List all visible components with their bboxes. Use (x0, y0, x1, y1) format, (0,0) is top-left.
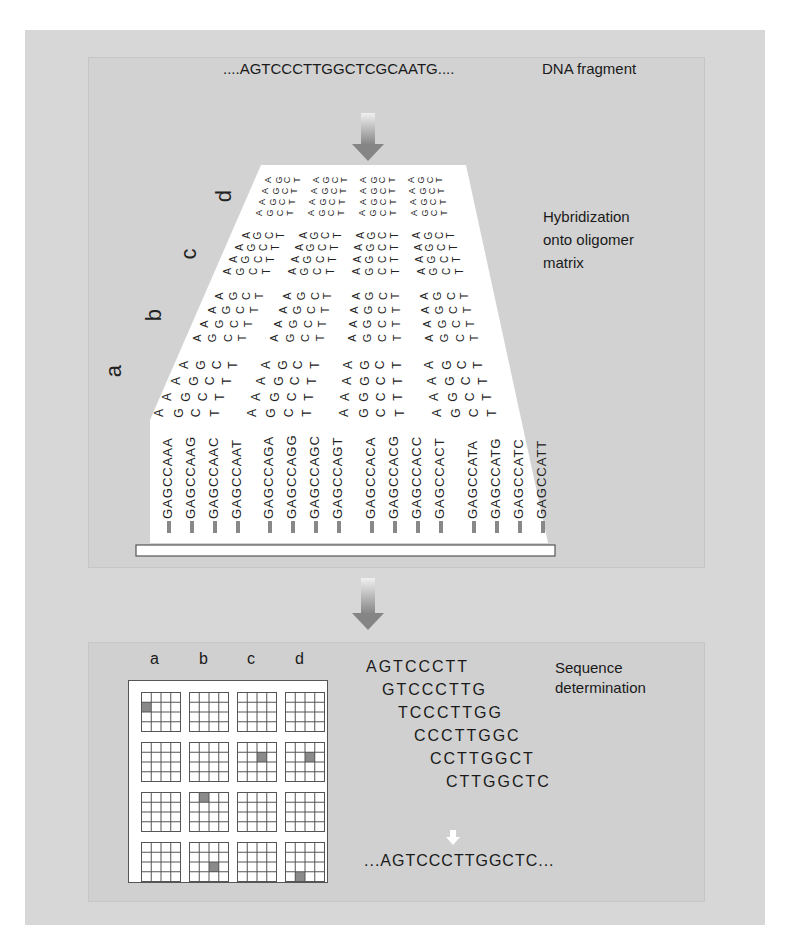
matrix-base: T (265, 256, 276, 262)
oligomer-sequence: GAGCCACT (432, 437, 447, 519)
matrix-base: A (177, 361, 191, 369)
probe-cell-grid (285, 692, 325, 732)
matrix-base: A (254, 377, 268, 385)
probe-cell-grid (237, 692, 277, 732)
oligomer-probe: GAGCCAGA (261, 423, 277, 533)
matrix-base: C (228, 320, 240, 328)
matrix-base: T (316, 321, 328, 328)
matrix-base: A (306, 210, 316, 216)
matrix-base: C (441, 268, 452, 275)
matrix-base: A (309, 188, 319, 194)
probe-linker (337, 521, 341, 533)
matrix-base: T (389, 256, 400, 262)
column-label-b: b (199, 650, 208, 668)
matrix-base: C (459, 377, 473, 386)
matrix-base: A (412, 244, 423, 251)
matrix-base: G (227, 292, 239, 301)
matrix-base: C (305, 306, 317, 314)
matrix-base: G (268, 198, 278, 205)
matrix-base: C (378, 199, 388, 206)
matrix-base: A (357, 210, 367, 216)
matrix-base: A (254, 210, 264, 216)
matrix-base: T (390, 307, 402, 314)
matrix-base: T (336, 210, 346, 216)
matrix-base: A (417, 292, 429, 299)
matrix-base: C (222, 334, 234, 342)
matrix-base: G (264, 408, 278, 417)
matrix-base: T (337, 199, 347, 205)
column-label-c: c (247, 650, 255, 668)
matrix-base: A (307, 199, 317, 205)
oligomer-sequence: GAGCCATC (511, 438, 526, 519)
matrix-base: C (312, 268, 323, 275)
matrix-base: T (207, 409, 221, 416)
matrix-base: C (436, 244, 447, 251)
probe-linker (439, 521, 443, 533)
matrix-base: G (194, 360, 208, 369)
matrix-base: C (317, 244, 328, 251)
matrix-base: C (210, 361, 224, 370)
probe-linker (213, 521, 217, 533)
matrix-base: A (286, 268, 297, 275)
matrix-base: C (377, 244, 388, 251)
probe-cell-grid (285, 792, 325, 832)
matrix-base: G (438, 334, 450, 343)
matrix-base: T (468, 335, 480, 342)
matrix-base: C (292, 361, 306, 370)
matrix-base: G (295, 292, 307, 301)
matrix-base: C (377, 177, 387, 184)
probe-cell-grid (189, 792, 229, 832)
matrix-base: T (471, 361, 485, 368)
matrix-base: C (450, 320, 462, 328)
oligomer-probe: GAGCCAAG (183, 423, 199, 533)
matrix-base: T (338, 188, 348, 194)
probe-cell-grid (237, 742, 277, 782)
matrix-base: T (388, 244, 399, 250)
matrix-base: C (248, 268, 259, 275)
matrix-base: T (391, 335, 403, 342)
matrix-base: C (374, 393, 388, 402)
matrix-base: T (439, 210, 449, 216)
matrix-base: C (463, 393, 477, 402)
matrix-base: T (461, 307, 473, 314)
matrix-base: A (425, 377, 439, 385)
matrix-base: C (445, 292, 457, 300)
oligomer-probe: GAGCCAAC (206, 423, 222, 533)
matrix-base: T (389, 268, 400, 274)
probe-cell-grid (141, 742, 181, 782)
matrix-base: G (187, 376, 201, 385)
matrix-base: G (306, 244, 317, 252)
matrix-base: A (406, 177, 416, 183)
oligomer-sequence: GAGCCATG (488, 438, 503, 519)
matrix-base: G (178, 392, 192, 401)
matrix-base: T (391, 393, 405, 400)
matrix-base: T (287, 199, 297, 205)
matrix-base: G (319, 187, 329, 194)
matrix-base: A (169, 377, 183, 385)
matrix-base: T (451, 256, 462, 262)
oligomer-sequence: GAGCCAGG (284, 434, 299, 519)
matrix-base: G (316, 209, 326, 216)
oligomer-sequence: GAGCCAAC (206, 437, 221, 519)
matrix-base: A (298, 232, 309, 239)
matrix-base: A (415, 268, 426, 275)
matrix-base: G (368, 187, 378, 194)
matrix-base: T (248, 307, 260, 314)
matrix-base: C (196, 393, 210, 402)
probe-linker (236, 521, 240, 533)
matrix-base: T (253, 293, 265, 300)
oligomer-probe: GAGCCAGT (330, 423, 346, 533)
probe-linker (314, 521, 318, 533)
sequence-determination-label: Sequence determination (555, 658, 646, 698)
matrix-base: G (300, 268, 311, 276)
matrix-base: A (198, 320, 210, 327)
matrix-base: A (311, 177, 321, 183)
column-label-d: d (295, 650, 304, 668)
matrix-base: T (436, 188, 446, 194)
probe-linker (393, 521, 397, 533)
matrix-base: G (419, 209, 429, 216)
matrix-base: A (409, 210, 419, 216)
probe-cell-grid (141, 842, 181, 882)
matrix-base: G (363, 292, 375, 301)
matrix-base: A (422, 361, 436, 369)
